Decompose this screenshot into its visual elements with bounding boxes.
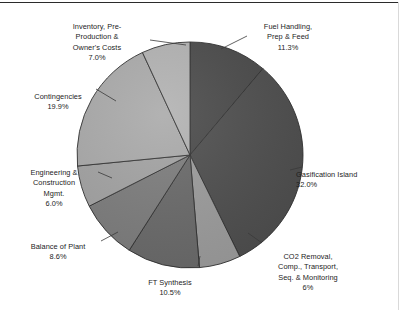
slice-label-contingencies: Contingencies 19.9% [10,82,106,123]
slice-label-contingencies-percent: 19.9% [10,102,106,112]
slice-label-fuel-handling-text: Fuel Handling, Prep & Feed [264,22,312,41]
slice-label-gasification-island-percent: 32.0% [296,180,396,190]
slice-label-balance-of-plant-text: Balance of Plant [31,242,86,251]
slice-label-balance-of-plant-percent: 8.6% [6,252,110,262]
slice-label-co2-removal: CO2 Removal, Comp., Transport, Seq. & Mo… [250,242,366,303]
slice-label-contingencies-text: Contingencies [34,92,82,101]
slice-label-gasification-island-text: Gasification Island [296,170,357,179]
slice-label-ft-synthesis: FT Synthesis 10.5% [118,268,222,309]
slice-label-inventory: Inventory, Pre- Production & Owner's Cos… [42,12,152,73]
slice-label-balance-of-plant: Balance of Plant 8.6% [6,232,110,273]
slice-label-inventory-text: Inventory, Pre- Production & Owner's Cos… [73,22,122,51]
slice-label-engineering-percent: 6.0% [6,199,102,209]
pie-slices-group: Fuel Handling, Prep & Feed 11.3%Gasifica… [77,42,303,268]
slice-label-co2-removal-percent: 6% [250,283,366,293]
slice-label-ft-synthesis-percent: 10.5% [118,288,222,298]
slice-label-fuel-handling: Fuel Handling, Prep & Feed 11.3% [236,12,340,63]
slice-label-fuel-handling-percent: 11.3% [236,43,340,53]
slice-label-engineering: Engineering & Construction Mgmt. 6.0% [6,158,102,219]
slice-label-inventory-percent: 7.0% [42,53,152,63]
pie-chart-figure: Fuel Handling, Prep & Feed 11.3%Gasifica… [0,0,399,310]
slice-label-co2-removal-text: CO2 Removal, Comp., Transport, Seq. & Mo… [278,252,338,281]
slice-label-ft-synthesis-text: FT Synthesis [148,278,192,287]
slice-label-gasification-island: Gasification Island 32.0% [296,160,396,201]
slice-label-engineering-text: Engineering & Construction Mgmt. [30,168,77,197]
